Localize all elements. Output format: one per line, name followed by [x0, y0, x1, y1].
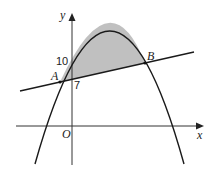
- x-axis-label: x: [196, 128, 203, 142]
- y-axis-arrow-icon: [69, 13, 76, 21]
- y-axis-label: y: [59, 8, 66, 22]
- diagram: y x O 10 7 A B: [0, 0, 209, 174]
- curve-y-intercept-label: 10: [56, 55, 68, 67]
- point-b-label: B: [147, 49, 155, 63]
- origin-label: O: [62, 127, 71, 141]
- point-a-label: A: [50, 69, 59, 83]
- diagram-canvas: y x O 10 7 A B: [0, 0, 209, 174]
- point-a-marker: [58, 80, 61, 83]
- line-y-intercept-label: 7: [74, 79, 80, 91]
